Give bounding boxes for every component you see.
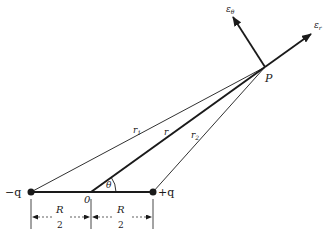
dim-left-numerator: R	[55, 204, 64, 215]
r2-line	[153, 67, 265, 192]
neg-charge-label: −q	[5, 186, 21, 199]
r-label: r	[164, 127, 169, 137]
pos-charge-label: +q	[158, 186, 174, 199]
theta-label: θ	[106, 180, 112, 190]
neg-charge-dot	[28, 189, 35, 196]
e-r-label: εr	[314, 20, 323, 31]
r1-label: r1	[133, 125, 141, 136]
r1-line	[31, 67, 265, 192]
dim-right-numerator: R	[116, 204, 125, 215]
r2-label: r2	[191, 130, 199, 141]
dipole-diagram: −q 0 +q P θ r1 r r2 εθ εr R 2 R 2	[0, 0, 330, 242]
origin-label: 0	[84, 194, 91, 205]
e-theta-vector	[233, 17, 265, 67]
e-theta-label: εθ	[226, 4, 235, 15]
point-P-label: P	[264, 72, 273, 85]
dim-left-denominator: 2	[57, 220, 63, 230]
r-line	[91, 67, 265, 192]
pos-charge-dot	[150, 189, 157, 196]
e-r-vector	[265, 34, 311, 67]
dim-right-denominator: 2	[118, 220, 124, 230]
theta-arc	[111, 177, 116, 192]
diagram-svg: −q 0 +q P θ r1 r r2 εθ εr R 2 R 2	[0, 0, 330, 242]
